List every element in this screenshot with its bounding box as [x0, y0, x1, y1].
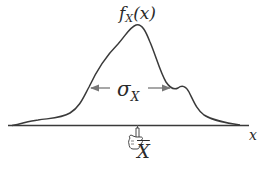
density-subscript: X	[125, 12, 133, 25]
density-argument: (x)	[133, 3, 156, 23]
mean-label: X	[137, 143, 150, 161]
sigma-symbol: σ	[117, 77, 131, 101]
x-axis-label: x	[249, 128, 257, 142]
density-curve	[12, 25, 240, 126]
density-function-label: fX(x)	[119, 5, 156, 24]
density-diagram: fX(x) σX x X	[0, 0, 264, 170]
standard-deviation-label: σX	[117, 79, 139, 103]
sigma-subscript: X	[131, 90, 140, 104]
